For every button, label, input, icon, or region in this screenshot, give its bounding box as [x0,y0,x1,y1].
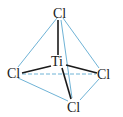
atom-cl-bottom: Cl [67,100,80,115]
bond-ti-right [66,65,97,73]
atom-ti-center: Ti [51,54,63,69]
edge-top-right [63,18,99,68]
atom-cl-right: Cl [97,67,110,82]
bond-ti-left [22,66,51,73]
edge-left-bottom [18,78,68,101]
atom-cl-left: Cl [7,66,20,81]
edge-right-bottom [80,79,99,100]
ticl4-tetrahedron-diagram: Cl Ti Cl Cl Cl [0,0,123,117]
atom-cl-top: Cl [53,6,66,21]
